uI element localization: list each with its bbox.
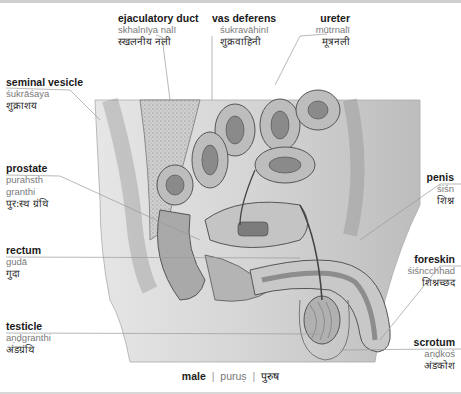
label-english: testicle xyxy=(6,320,106,332)
label-scrotum: scrotum aṇḍkoś अंडकोश xyxy=(375,336,455,372)
label-hindi: शिश्न xyxy=(380,195,454,207)
label-prostate: prostate purahsth granthi पुर:स्थ ग्रंथि xyxy=(6,162,106,210)
caption-english: male xyxy=(182,370,206,382)
label-english: seminal vesicle xyxy=(6,76,106,88)
label-hindi: मूत्रनली xyxy=(300,36,350,48)
figure-caption: male | puruṣ | पुरुष xyxy=(0,369,461,383)
caption-separator: | xyxy=(212,370,215,382)
caption-separator: | xyxy=(253,370,256,382)
label-hindi: पुर:स्थ ग्रंथि xyxy=(6,198,106,210)
label-transliteration-line2: granthi xyxy=(6,186,106,198)
label-hindi: शिश्नच्छद xyxy=(375,277,455,289)
label-transliteration: śiśn xyxy=(380,183,454,195)
label-hindi: शुक्रवाहिनी xyxy=(212,36,302,48)
label-transliteration: skhalnīya nalī xyxy=(118,24,218,36)
label-transliteration: aṇḍkoś xyxy=(375,348,455,360)
label-ejaculatory-duct: ejaculatory duct skhalnīya nalī स्खलनीय … xyxy=(118,12,218,48)
label-english: ejaculatory duct xyxy=(118,12,218,24)
label-english: foreskin xyxy=(375,253,455,265)
label-rectum: rectum gudā गुदा xyxy=(6,244,106,280)
label-transliteration-line1: purahsth xyxy=(6,174,106,186)
caption-transliteration: puruṣ xyxy=(220,370,246,382)
caption-hindi: पुरुष xyxy=(261,370,279,382)
label-transliteration: śukravāhinī xyxy=(212,24,302,36)
label-transliteration: mūtrnalī xyxy=(300,24,350,36)
label-english: rectum xyxy=(6,244,106,256)
label-hindi: स्खलनीय नली xyxy=(118,36,218,48)
label-seminal-vesicle: seminal vesicle śukrāśaya शुक्राशय xyxy=(6,76,106,112)
label-english: vas deferens xyxy=(212,12,302,24)
label-hindi: अंडग्रंथि xyxy=(6,344,106,356)
label-ureter: ureter mūtrnalī मूत्रनली xyxy=(300,12,350,48)
label-transliteration: aṇḍgranthi xyxy=(6,332,106,344)
label-hindi: शुक्राशय xyxy=(6,100,106,112)
label-transliteration: gudā xyxy=(6,256,106,268)
label-foreskin: foreskin śiśncchhad शिश्नच्छद xyxy=(375,253,455,289)
label-english: scrotum xyxy=(375,336,455,348)
label-transliteration: śukrāśaya xyxy=(6,88,106,100)
label-vas-deferens: vas deferens śukravāhinī शुक्रवाहिनी xyxy=(212,12,302,48)
label-penis: penis śiśn शिश्न xyxy=(380,171,454,207)
label-testicle: testicle aṇḍgranthi अंडग्रंथि xyxy=(6,320,106,356)
label-english: prostate xyxy=(6,162,106,174)
label-hindi: गुदा xyxy=(6,268,106,280)
label-transliteration: śiśncchhad xyxy=(375,265,455,277)
label-english: penis xyxy=(380,171,454,183)
label-english: ureter xyxy=(300,12,350,24)
